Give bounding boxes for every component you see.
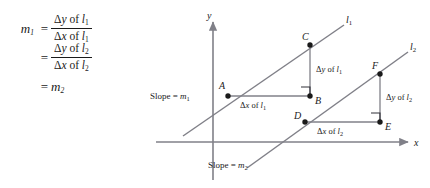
formula-lhs-subscript: 1 [30,28,34,37]
point-d-label: D [293,110,302,121]
line-l1-label: l1 [346,14,352,26]
fraction-1-numerator: Δy of l1 [51,13,92,28]
fraction-2: Δy of l2 Δx of l2 [51,42,92,74]
formula-equals-1: = [38,21,51,37]
point-f-label: F [371,60,379,71]
fraction-2-numerator: Δy of l2 [51,42,92,57]
figure-root: m1 = Δy of l1 Δx of l1 = Δy of l2 Δx of … [0,0,430,188]
fraction-2-denominator: Δx of l2 [51,58,92,73]
slope-equality-formula: m1 = Δy of l1 Δx of l1 = Δy of l2 Δx of … [6,14,152,104]
formula-result: m2 [51,79,64,95]
point-f-dot [377,71,382,76]
point-b-dot [307,93,312,98]
delta-y-l1-label: Δy of l1 [316,64,342,75]
slope-2-label: Slope = m2 [208,160,248,171]
formula-row-2: = Δy of l2 Δx of l2 [6,43,152,72]
x-axis-label: x [413,137,419,148]
delta-y-l2-label: Δy of l2 [386,92,412,103]
delta-x-l2-label: Δx of l2 [317,126,343,137]
line-l1 [183,25,344,136]
formula-lhs: m1 [6,21,38,37]
y-axis-label: y [206,10,212,21]
point-a-dot [225,93,230,98]
line-l2-label: l2 [410,41,417,53]
slope-1-label: Slope = m1 [150,91,190,102]
point-c-dot [307,42,312,47]
formula-equals-3: = [38,79,51,95]
point-c-label: C [302,31,309,42]
point-d-dot [302,119,307,124]
formula-row-3: = m2 [6,72,152,101]
point-e-dot [377,119,382,124]
fraction-1: Δy of l1 Δx of l1 [51,13,92,45]
point-b-label: B [315,95,321,106]
parallel-lines-diagram: y x l1 l2 Slope = m1 Slope = m2 A B C D … [150,0,430,188]
point-a-label: A [218,80,226,91]
point-e-label: E [384,121,391,132]
formula-row-1: m1 = Δy of l1 Δx of l1 [6,14,152,43]
formula-equals-2: = [38,50,51,66]
delta-x-l1-label: Δx of l1 [240,100,266,111]
